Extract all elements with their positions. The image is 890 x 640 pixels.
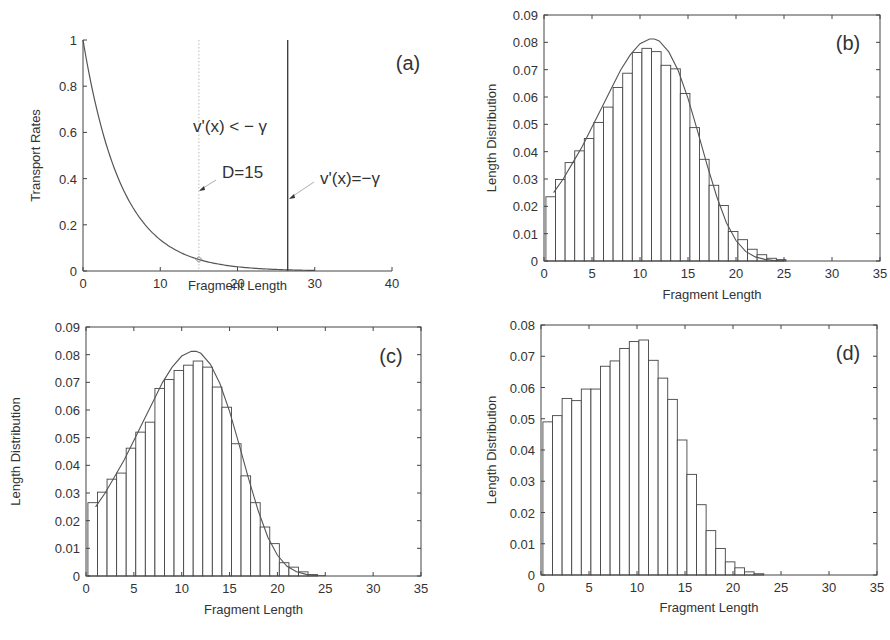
panel-label: (c): [379, 345, 402, 367]
x-tick-label: 35: [870, 580, 884, 595]
histogram-bar: [584, 139, 594, 261]
x-tick-label: 5: [585, 580, 592, 595]
histogram-bar: [661, 65, 671, 261]
histogram-bar: [668, 399, 678, 575]
histogram-bar: [700, 159, 710, 261]
x-tick-label: 25: [318, 581, 332, 596]
histogram-bar: [107, 479, 117, 576]
histogram-bar: [581, 389, 591, 575]
y-tick-label: 0.04: [513, 145, 538, 160]
y-tick-label: 0.01: [55, 541, 80, 556]
y-tick-label: 0.8: [59, 79, 77, 94]
histogram-bar: [601, 366, 611, 575]
x-tick-label: 10: [153, 276, 167, 291]
y-tick-label: 0.02: [510, 506, 535, 521]
panel-d-length-distribution: 0510152025303500.010.020.030.040.050.060…: [484, 318, 884, 615]
x-axis-label: Fragment Length: [188, 278, 287, 293]
x-axis-label: Fragment Length: [662, 287, 761, 302]
histogram-bar: [117, 473, 127, 576]
histogram-bar: [620, 348, 630, 575]
x-tick-label: 15: [222, 581, 236, 596]
x-tick-label: 20: [270, 581, 284, 596]
y-tick-label: 0.03: [55, 486, 80, 501]
arrowhead-icon: [199, 186, 205, 191]
x-tick-label: 0: [82, 581, 89, 596]
y-tick-label: 0: [73, 569, 80, 584]
x-tick-label: 30: [822, 580, 836, 595]
histogram-bar: [652, 52, 662, 261]
histogram-bar: [632, 52, 642, 261]
x-tick-label: 15: [681, 266, 695, 281]
histogram-bar: [553, 416, 563, 575]
panel-b-length-distribution: 0510152025303500.010.020.030.040.050.060…: [484, 8, 887, 302]
x-tick-label: 5: [130, 581, 137, 596]
y-axis-label: Length Distribution: [8, 397, 23, 505]
histogram-bar: [716, 548, 726, 575]
y-axis-label: Length Distribution: [484, 84, 499, 192]
histogram-bar: [642, 48, 652, 261]
figure: v'(x) < − γD=15v'(x)=−γ01020304000.20.40…: [0, 0, 890, 640]
x-tick-label: 20: [726, 580, 740, 595]
y-tick-label: 0.06: [513, 90, 538, 105]
y-tick-label: 0.03: [510, 474, 535, 489]
x-tick-label: 30: [366, 581, 380, 596]
histogram-bar: [184, 365, 194, 576]
x-tick-label: 25: [777, 266, 791, 281]
x-tick-label: 0: [537, 580, 544, 595]
histogram-bar: [680, 93, 690, 261]
arrowhead-icon: [289, 194, 295, 199]
histogram-bar: [270, 544, 280, 576]
y-tick-label: 0.02: [55, 514, 80, 529]
y-tick-label: 0.03: [513, 172, 538, 187]
histogram-bar: [126, 448, 136, 576]
x-tick-label: 35: [414, 581, 428, 596]
histogram-bar: [697, 505, 707, 575]
y-tick-label: 0.04: [510, 443, 535, 458]
histogram-bar: [591, 389, 601, 575]
y-tick-label: 0.05: [510, 412, 535, 427]
histogram-bar: [565, 163, 575, 261]
histogram-bar: [556, 180, 566, 261]
histogram-bar: [629, 342, 639, 575]
histogram-bar: [241, 476, 251, 576]
panel-label: (a): [396, 52, 420, 74]
y-tick-label: 0.09: [513, 8, 538, 23]
histogram-bar: [639, 340, 649, 575]
y-tick-label: 0.05: [55, 431, 80, 446]
histogram-bar: [136, 432, 146, 576]
x-tick-label: 40: [385, 276, 399, 291]
histogram-bar: [279, 563, 289, 576]
y-tick-label: 0: [531, 254, 538, 269]
x-tick-label: 20: [729, 266, 743, 281]
y-tick-label: 0.09: [55, 320, 80, 335]
histogram-bar: [203, 367, 213, 576]
histogram-bar: [706, 531, 716, 575]
panel-c-length-distribution: 0510152025303500.010.020.030.040.050.060…: [8, 320, 428, 617]
histogram-bars: [543, 340, 764, 575]
histogram-bar: [594, 122, 604, 261]
y-tick-label: 0.05: [513, 117, 538, 132]
histogram-bar: [174, 370, 184, 576]
y-tick-label: 0.08: [510, 318, 535, 333]
y-tick-label: 0.4: [59, 172, 77, 187]
x-tick-label: 30: [308, 276, 322, 291]
y-tick-label: 0.01: [510, 537, 535, 552]
x-tick-label: 10: [174, 581, 188, 596]
histogram-bar: [677, 440, 687, 575]
y-tick-label: 0.08: [513, 35, 538, 50]
x-tick-label: 35: [873, 266, 887, 281]
y-tick-label: 0.06: [55, 403, 80, 418]
histogram-bar: [735, 568, 745, 575]
x-tick-label: 30: [825, 266, 839, 281]
y-tick-label: 0.01: [513, 227, 538, 242]
annotation-inequality: v'(x) < − γ: [193, 117, 268, 136]
histogram-bar: [212, 387, 222, 576]
histogram-bar: [649, 360, 659, 575]
y-axis-label: Transport Rates: [28, 109, 43, 202]
y-axis-label: Length Distribution: [484, 396, 499, 504]
y-tick-label: 1: [70, 33, 77, 48]
y-tick-label: 0.07: [510, 349, 535, 364]
x-tick-label: 25: [774, 580, 788, 595]
y-tick-label: 0.06: [510, 381, 535, 396]
histogram-bar: [658, 378, 668, 575]
